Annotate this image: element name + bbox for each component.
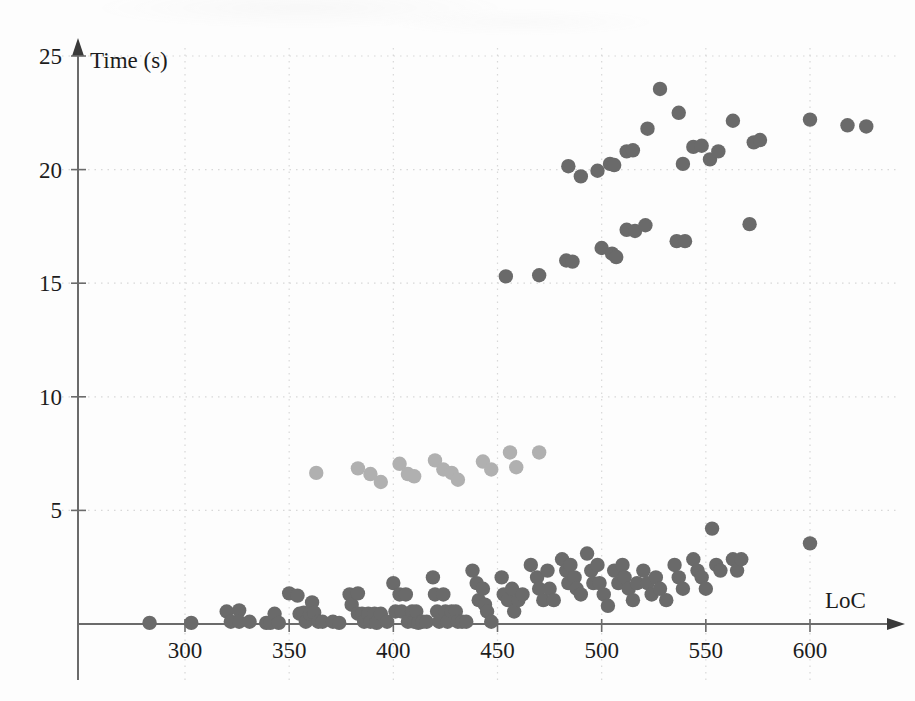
data-point: [459, 615, 473, 629]
data-point: [419, 615, 433, 629]
data-point: [803, 536, 817, 550]
y-tick-label: 5: [51, 498, 63, 523]
data-point: [290, 588, 304, 602]
data-point: [676, 582, 690, 596]
data-point: [309, 466, 323, 480]
y-axis-arrowhead: [72, 38, 84, 56]
data-point: [580, 546, 594, 560]
data-point: [547, 593, 561, 607]
data-point: [351, 586, 365, 600]
data-point: [532, 268, 546, 282]
data-point: [636, 563, 650, 577]
data-point: [753, 133, 767, 147]
data-point: [626, 143, 640, 157]
data-point: [242, 615, 256, 629]
data-point: [676, 157, 690, 171]
y-tick-labels: 510152025: [39, 44, 62, 523]
x-tick-label: 450: [480, 638, 515, 663]
data-point: [476, 582, 490, 596]
data-points: [142, 82, 873, 630]
data-point: [678, 234, 692, 248]
data-point: [659, 593, 673, 607]
data-point: [840, 118, 854, 132]
x-tick-labels: 300350400450500550600: [168, 638, 828, 663]
data-point: [705, 521, 719, 535]
data-point: [607, 158, 621, 172]
series-high-band: [499, 82, 874, 284]
data-point: [532, 445, 546, 459]
series-low-band: [142, 521, 817, 630]
data-point: [601, 599, 615, 613]
data-point: [803, 112, 817, 126]
data-point: [734, 552, 748, 566]
data-point: [515, 587, 529, 601]
data-point: [563, 558, 577, 572]
data-point: [574, 169, 588, 183]
x-tick-label: 400: [376, 638, 411, 663]
y-tick-label: 10: [39, 385, 62, 410]
data-point: [590, 558, 604, 572]
y-tick-label: 20: [39, 158, 62, 183]
x-tick-label: 550: [689, 638, 724, 663]
data-point: [713, 563, 727, 577]
data-point: [494, 570, 508, 584]
x-axis-arrowhead: [887, 618, 905, 630]
axis-lines: [72, 38, 905, 680]
x-tick-label: 600: [793, 638, 828, 663]
data-point: [574, 587, 588, 601]
data-point: [142, 616, 156, 630]
data-point: [540, 563, 554, 577]
data-point: [859, 119, 873, 133]
data-point: [561, 159, 575, 173]
y-tick-label: 15: [39, 271, 62, 296]
data-point: [509, 460, 523, 474]
data-point: [726, 114, 740, 128]
data-point: [332, 616, 346, 630]
data-point: [638, 218, 652, 232]
data-point: [436, 587, 450, 601]
data-point: [653, 82, 667, 96]
data-point: [351, 461, 365, 475]
data-point: [590, 164, 604, 178]
data-point: [272, 616, 286, 630]
data-point: [465, 563, 479, 577]
data-point: [667, 558, 681, 572]
x-tick-label: 300: [168, 638, 203, 663]
data-point: [426, 570, 440, 584]
data-point: [499, 269, 513, 283]
data-point: [640, 122, 654, 136]
y-tick-label: 25: [39, 44, 62, 69]
data-point: [615, 558, 629, 572]
x-axis-title: LoC: [825, 588, 866, 613]
data-point: [399, 587, 413, 601]
data-point: [503, 445, 517, 459]
data-point: [524, 558, 538, 572]
scatter-plot-svg: 300350400450500550600 510152025 LoC Time…: [0, 0, 915, 701]
data-point: [407, 469, 421, 483]
data-point: [699, 582, 713, 596]
data-point: [711, 144, 725, 158]
data-point: [742, 217, 756, 231]
data-point: [484, 615, 498, 629]
data-point: [626, 593, 640, 607]
data-point: [184, 616, 198, 630]
y-axis-title: Time (s): [90, 48, 168, 73]
data-point: [484, 462, 498, 476]
data-point: [672, 106, 686, 120]
data-point: [451, 473, 465, 487]
x-tick-label: 500: [584, 638, 619, 663]
x-tick-label: 350: [272, 638, 307, 663]
data-point: [565, 254, 579, 268]
data-point: [374, 475, 388, 489]
data-point: [609, 250, 623, 264]
series-mid-band: [309, 445, 546, 489]
scatter-plot-figure: 300350400450500550600 510152025 LoC Time…: [0, 0, 915, 701]
data-point: [694, 139, 708, 153]
